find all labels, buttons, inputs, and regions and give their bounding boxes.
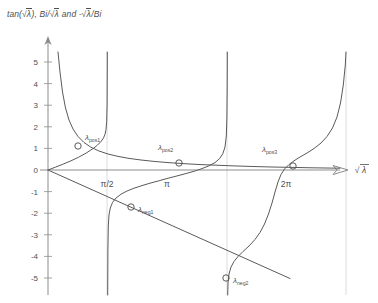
y-label-neg2: -2 [31, 209, 39, 218]
marker-lambda-pos1 [75, 143, 81, 149]
y-label-3: 3 [34, 101, 39, 110]
marker-lambda-pos3 [290, 163, 296, 169]
x-label-pi: π [164, 179, 170, 189]
label-neg1-sub: neg1 [142, 209, 154, 215]
y-label-2: 2 [34, 123, 39, 132]
x-axis-title: √ λ [355, 165, 369, 176]
figure-container: tan(√λ), Bi/√λ and -√λ/Bi [0, 0, 378, 303]
y-label-5: 5 [34, 58, 39, 67]
tan-branch-1 [48, 52, 107, 170]
y-tick-labels: 5 4 3 2 1 0 -1 -2 -3 -4 -5 [31, 58, 39, 283]
x-axis [40, 166, 348, 175]
label-lambda-neg1: λneg1 [137, 205, 154, 215]
x-label-pi-half: π/2 [101, 179, 114, 189]
label-lambda-pos3: λpos3 [261, 145, 277, 155]
label-pos3-sub: pos3 [266, 149, 277, 155]
label-lambda-pos2: λpos2 [157, 143, 173, 153]
asymptote-lines [107, 52, 346, 295]
x-axis-title-lambda: λ [361, 165, 366, 175]
x-axis-title-text: √ [355, 165, 360, 175]
label-pos2-sub: pos2 [162, 147, 173, 153]
plot-canvas: 5 4 3 2 1 0 -1 -2 -3 -4 -5 π/2 π 2π √ λ [0, 0, 378, 303]
x-tick-labels: π/2 π 2π [101, 179, 292, 189]
y-label-neg4: -4 [31, 252, 39, 261]
y-label-1: 1 [34, 144, 39, 153]
y-label-neg5: -5 [31, 274, 39, 283]
y-label-neg3: -3 [31, 231, 39, 240]
bi-over-sqrt-lambda-curve [58, 52, 340, 168]
y-label-neg1: -1 [31, 188, 39, 197]
label-neg2-sub: neg2 [237, 280, 249, 286]
y-label-0: 0 [34, 166, 39, 175]
tan-branch-2 [108, 52, 228, 295]
label-lambda-neg2: λneg2 [232, 276, 249, 286]
label-lambda-pos1: λpos1 [84, 133, 100, 143]
point-labels: λpos1 λpos2 λpos3 λneg1 λneg2 [84, 133, 277, 286]
x-label-2pi: 2π [281, 179, 292, 189]
y-label-4: 4 [34, 80, 39, 89]
label-pos1-sub: pos1 [89, 137, 100, 143]
